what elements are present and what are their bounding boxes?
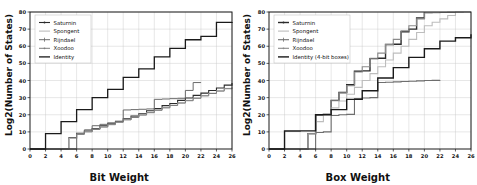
svg-text:2: 2 bbox=[44, 153, 48, 159]
svg-text:2: 2 bbox=[282, 153, 286, 159]
svg-text:12: 12 bbox=[358, 153, 366, 159]
svg-text:8: 8 bbox=[329, 153, 333, 159]
svg-text:30: 30 bbox=[19, 95, 27, 101]
svg-text:80: 80 bbox=[19, 9, 27, 15]
svg-text:70: 70 bbox=[19, 26, 27, 32]
svg-text:20: 20 bbox=[182, 153, 190, 159]
svg-text:4: 4 bbox=[59, 153, 63, 159]
legend: SaturninSpongentRijndaelXoodooIdentity (… bbox=[274, 15, 350, 63]
legend-label: Saturnin bbox=[292, 20, 315, 26]
svg-text:18: 18 bbox=[166, 153, 174, 159]
svg-text:24: 24 bbox=[213, 153, 221, 159]
legend-label: Xoodoo bbox=[54, 45, 74, 51]
legend-label: Spongent bbox=[292, 28, 318, 35]
svg-text:30: 30 bbox=[257, 95, 265, 101]
svg-text:6: 6 bbox=[75, 153, 79, 159]
svg-text:26: 26 bbox=[228, 153, 236, 159]
svg-text:26: 26 bbox=[467, 153, 475, 159]
series-xoodoo bbox=[30, 87, 232, 149]
x-axis-label-left: Bit Weight bbox=[0, 172, 239, 183]
svg-text:18: 18 bbox=[405, 153, 413, 159]
svg-text:24: 24 bbox=[451, 153, 459, 159]
svg-text:50: 50 bbox=[257, 60, 265, 66]
svg-text:12: 12 bbox=[120, 153, 128, 159]
x-axis-label-right: Box Weight bbox=[239, 172, 477, 183]
svg-text:20: 20 bbox=[420, 153, 428, 159]
legend: SaturninSpongentRijndaelXoodooIdentity bbox=[35, 15, 91, 63]
legend-label: Spongent bbox=[54, 28, 80, 35]
svg-text:60: 60 bbox=[257, 43, 265, 49]
svg-text:60: 60 bbox=[19, 43, 27, 49]
svg-text:0: 0 bbox=[267, 153, 271, 159]
svg-text:14: 14 bbox=[374, 153, 382, 159]
chart-svg-left: 0246810121416182022242601020304050607080… bbox=[0, 0, 239, 185]
svg-text:8: 8 bbox=[90, 153, 94, 159]
svg-text:0: 0 bbox=[28, 153, 32, 159]
series-saturnin bbox=[30, 83, 232, 149]
svg-text:20: 20 bbox=[257, 112, 265, 118]
svg-text:22: 22 bbox=[436, 153, 444, 159]
svg-text:40: 40 bbox=[19, 78, 27, 84]
svg-text:16: 16 bbox=[151, 153, 159, 159]
svg-text:6: 6 bbox=[313, 153, 317, 159]
svg-text:10: 10 bbox=[343, 153, 351, 159]
chart-panel-right: Log2(Number of States) 02468101214161820… bbox=[239, 0, 477, 185]
legend-label: Rijndael bbox=[292, 37, 314, 44]
svg-text:10: 10 bbox=[19, 129, 27, 135]
svg-text:80: 80 bbox=[257, 9, 265, 15]
figure-container: Log2(Number of States) 02468101214161820… bbox=[0, 0, 477, 185]
svg-text:10: 10 bbox=[257, 129, 265, 135]
svg-text:40: 40 bbox=[257, 78, 265, 84]
svg-text:70: 70 bbox=[257, 26, 265, 32]
plot-area-right: 0246810121416182022242601020304050607080… bbox=[239, 0, 477, 185]
legend-label: Identity (4-bit boxes) bbox=[292, 54, 348, 61]
series-rijndael bbox=[30, 82, 201, 149]
svg-text:10: 10 bbox=[104, 153, 112, 159]
svg-text:14: 14 bbox=[135, 153, 143, 159]
legend-label: Saturnin bbox=[54, 20, 77, 26]
legend-label: Rijndael bbox=[54, 37, 76, 44]
svg-text:50: 50 bbox=[19, 60, 27, 66]
svg-text:22: 22 bbox=[197, 153, 205, 159]
legend-label: Identity bbox=[54, 54, 75, 61]
svg-text:0: 0 bbox=[22, 146, 26, 152]
svg-text:4: 4 bbox=[298, 153, 302, 159]
svg-text:20: 20 bbox=[19, 112, 27, 118]
plot-area-left: 0246810121416182022242601020304050607080… bbox=[0, 0, 239, 185]
chart-panel-left: Log2(Number of States) 02468101214161820… bbox=[0, 0, 239, 185]
chart-svg-right: 0246810121416182022242601020304050607080… bbox=[239, 0, 477, 185]
legend-label: Xoodoo bbox=[292, 45, 312, 51]
svg-text:16: 16 bbox=[389, 153, 397, 159]
svg-text:0: 0 bbox=[261, 146, 265, 152]
